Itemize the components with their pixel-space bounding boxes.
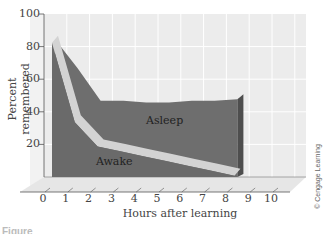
asleep-area-side (237, 94, 243, 177)
x-tick-label: 9 (241, 192, 255, 205)
x-axis-label: Hours after learning (110, 207, 250, 220)
copyright-notice: © Cengage Learning (314, 132, 321, 222)
x-tick-label: 10 (264, 192, 278, 205)
x-tick-label: 3 (104, 192, 118, 205)
x-tick-label: 4 (127, 192, 141, 205)
x-tick-label: 8 (218, 192, 232, 205)
x-tick-label: 6 (173, 192, 187, 205)
awake-label: Awake (96, 155, 133, 168)
chart-figure: 20406080100 012345678910 Percent remembe… (0, 0, 331, 234)
x-tick-label: 7 (196, 192, 210, 205)
x-tick-label: 2 (82, 192, 96, 205)
figure-caption-cutoff: Figure (2, 226, 33, 234)
x-tick-label: 1 (59, 192, 73, 205)
x-tick-label: 5 (150, 192, 164, 205)
y-axis-label: Percent remembered (6, 44, 32, 154)
x-tick-label: 0 (36, 192, 50, 205)
chart-floor (20, 177, 306, 192)
asleep-label: Asleep (146, 114, 183, 127)
y-tick-label: 100 (18, 7, 40, 20)
